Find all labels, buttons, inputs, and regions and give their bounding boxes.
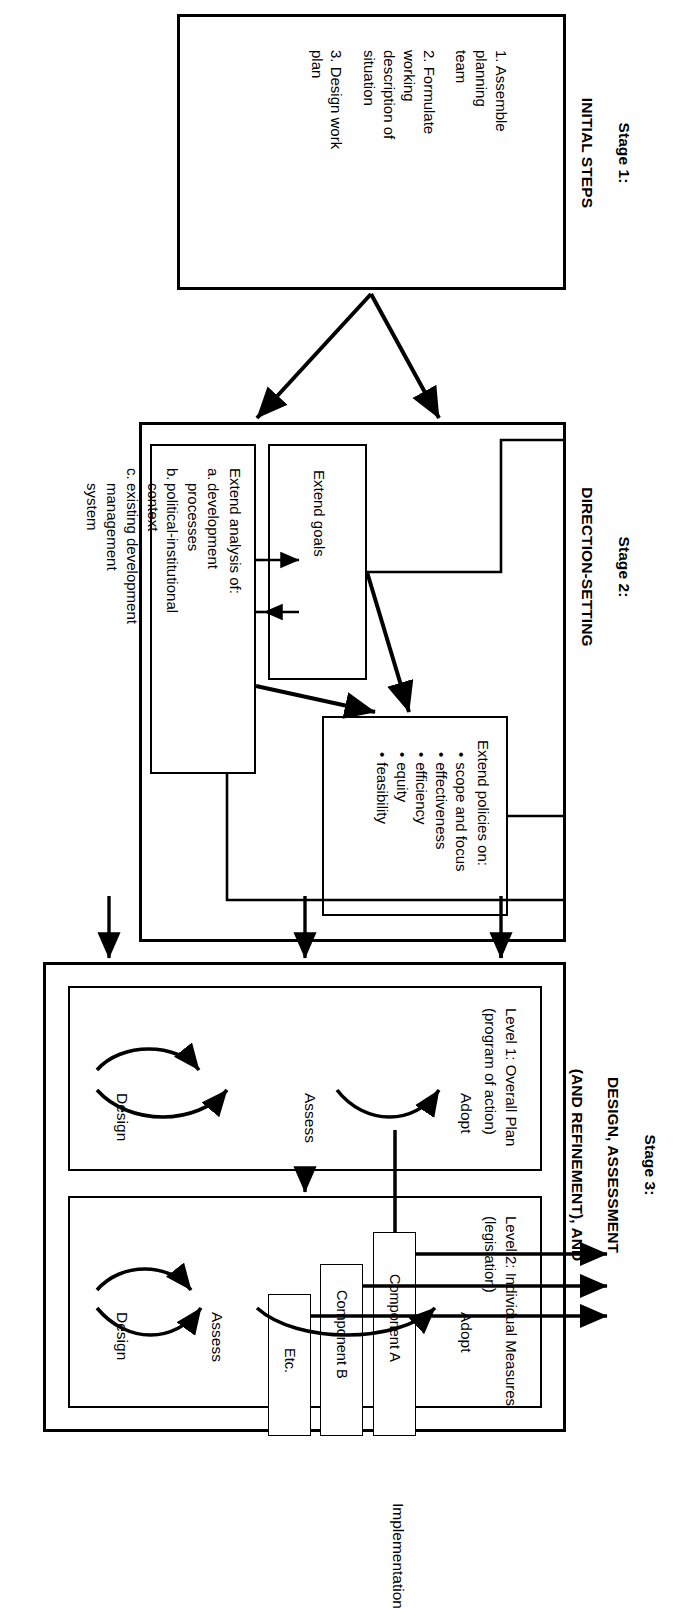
analysis-item-c-text: existing development management system: [82, 483, 141, 624]
stage-1-title-line1: Stage 1:: [614, 28, 632, 278]
analysis-item-a: a. development processes: [183, 468, 223, 768]
stage-3-title-line2: DESIGN, ASSESSMENT: [604, 955, 622, 1375]
policy-bullet-1: scope and focus: [451, 752, 471, 932]
stage-1-step-2: 2. Formulate working description of situ…: [359, 50, 438, 280]
stage-1-steps: 1. Assemble planning team 2. Formulate w…: [307, 50, 511, 280]
extend-goals-label: Extend goals: [309, 470, 329, 680]
component-b-label: Component B: [334, 1290, 350, 1379]
level-1-cycle-adopt: Adopt: [457, 1093, 475, 1134]
stage-1-step-3: 3. Design work plan: [307, 50, 347, 280]
stage-3-title-line3: (AND REFINEMENT), AND: [567, 955, 585, 1375]
level-2-heading: Level 2: Individual Measures: [501, 1216, 521, 1516]
stage-2-title-line2: DIRECTION-SETTING: [578, 402, 596, 732]
policy-bullet-5: feasibility: [372, 752, 392, 932]
implementation-label: Implementation: [389, 1503, 407, 1609]
analysis-item-c: c. existing development management syste…: [82, 468, 141, 768]
policy-bullet-2: effectiveness: [431, 752, 451, 932]
extend-policies-heading: Extend policies on:: [473, 740, 493, 920]
analysis-item-b-key: b.: [143, 468, 183, 483]
stage-2-title: Stage 2: DIRECTION-SETTING: [560, 402, 651, 732]
stage-2-title-line1: Stage 2:: [614, 402, 632, 732]
stage-1-step-1: 1. Assemble planning team: [452, 50, 511, 280]
level-2-subheading: (legislation): [480, 1216, 500, 1516]
analysis-item-c-key: c.: [82, 468, 141, 483]
stage-1-title-line2: INITIAL STEPS: [578, 28, 596, 278]
level-2-cycle-adopt: Adopt: [457, 1312, 475, 1353]
component-a-label: Component A: [387, 1274, 403, 1362]
stage1-to-stage2-connectors: [257, 294, 439, 418]
component-etc-label: Etc.: [282, 1348, 298, 1373]
extend-analysis-items: a. development processes b. political-in…: [82, 468, 224, 768]
stage-3-title-line1: Stage 3:: [640, 955, 658, 1375]
extend-analysis-heading: Extend analysis of:: [225, 468, 245, 768]
level-1-cycle-assess: Assess: [301, 1093, 319, 1143]
level-2-cycle-assess: Assess: [208, 1312, 226, 1362]
level-2-cycle-design: Design: [113, 1312, 131, 1360]
analysis-item-a-text: development processes: [183, 483, 223, 569]
extend-policies-bullets: scope and focus effectiveness efficiency…: [372, 752, 471, 932]
analysis-item-b: b. political-institutional context: [143, 468, 183, 768]
stage-1-title: Stage 1: INITIAL STEPS: [560, 28, 651, 278]
policy-bullet-3: efficiency: [412, 752, 432, 932]
analysis-item-b-text: political-institutional context: [143, 483, 183, 613]
policy-bullet-4: equity: [392, 752, 412, 932]
analysis-item-a-key: a.: [183, 468, 223, 483]
level-1-box: [68, 986, 542, 1171]
level-1-cycle-design: Design: [113, 1093, 131, 1141]
